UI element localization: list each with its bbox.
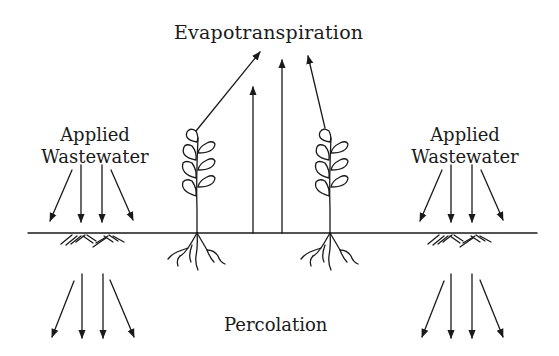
evapotranspiration-label: Evapotranspiration xyxy=(0,23,559,42)
diagram-graphics xyxy=(0,0,559,356)
soil-hatching-right xyxy=(428,235,491,247)
applied-wastewater-arrows-right xyxy=(420,165,503,222)
applied-right-line1: Applied xyxy=(400,124,530,146)
applied-wastewater-arrows-left xyxy=(50,165,133,222)
applied-wastewater-label-left: Applied Wastewater xyxy=(30,124,160,168)
percolation-label: Percolation xyxy=(224,316,327,334)
percolation-arrows-left xyxy=(52,274,134,338)
land-application-diagram: Evapotranspiration Applied Wastewater Ap… xyxy=(0,0,559,356)
plant-right xyxy=(301,129,358,270)
applied-right-line2: Wastewater xyxy=(400,146,530,168)
applied-wastewater-label-right: Applied Wastewater xyxy=(400,124,530,168)
applied-left-line1: Applied xyxy=(30,124,160,146)
percolation-arrows-right xyxy=(422,274,503,338)
soil-hatching-left xyxy=(61,235,124,247)
applied-left-line2: Wastewater xyxy=(30,146,160,168)
evapotranspiration-arrows xyxy=(196,52,325,233)
plant-left xyxy=(168,129,225,270)
